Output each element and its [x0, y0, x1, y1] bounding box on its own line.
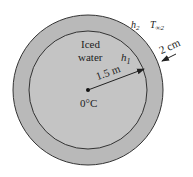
tank-diagram: Iced water h1 h2 T∞2 1.5 m 2 cm 0°C: [0, 0, 193, 177]
diagram-svg: Iced water h1 h2 T∞2 1.5 m 2 cm 0°C: [0, 0, 193, 177]
thickness-label: 2 cm: [157, 36, 182, 56]
interior-label-line1: Iced: [81, 38, 100, 50]
center-temp-label: 0°C: [80, 97, 97, 109]
ambient-temp-label: T∞2: [150, 19, 165, 32]
interior-label-line2: water: [78, 51, 103, 63]
